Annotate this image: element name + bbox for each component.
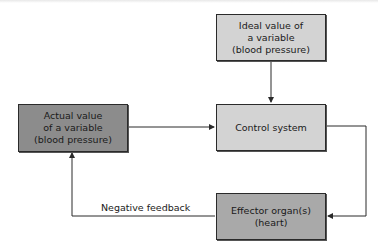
- ideal-line-3: (blood pressure): [232, 44, 310, 56]
- negative-feedback-label: Negative feedback: [101, 202, 190, 213]
- actual-line-1: Actual value: [34, 110, 112, 122]
- effector-line-1: Effector organ(s): [231, 205, 311, 217]
- effector-organ-box: Effector organ(s) (heart): [216, 193, 326, 240]
- effector-line-2: (heart): [231, 217, 311, 229]
- ideal-line-2: a variable: [232, 32, 310, 44]
- arrow-control-to-effector: [326, 126, 366, 216]
- actual-line-2: of a variable: [34, 122, 112, 134]
- actual-line-3: (blood pressure): [34, 134, 112, 146]
- ideal-value-box: Ideal value of a variable (blood pressur…: [216, 14, 326, 61]
- control-label: Control system: [235, 122, 307, 134]
- actual-value-box: Actual value of a variable (blood pressu…: [18, 104, 128, 152]
- control-system-box: Control system: [216, 104, 326, 151]
- ideal-line-1: Ideal value of: [232, 20, 310, 32]
